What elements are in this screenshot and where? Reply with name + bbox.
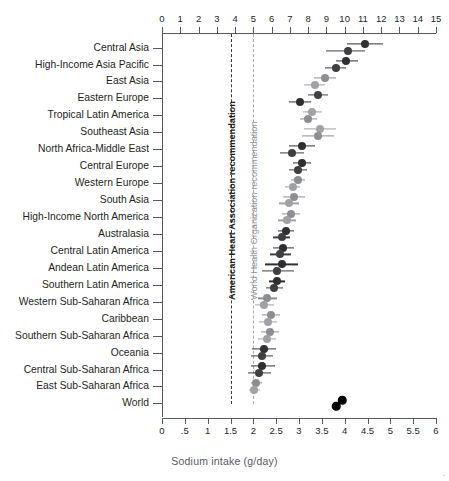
data-point-women bbox=[304, 115, 312, 123]
top-tick bbox=[436, 27, 437, 33]
category-tick bbox=[153, 149, 162, 150]
data-point-women bbox=[288, 149, 296, 157]
data-point-women bbox=[344, 47, 352, 55]
data-point-women bbox=[250, 386, 258, 394]
category-tick bbox=[153, 200, 162, 201]
top-tick bbox=[253, 27, 254, 33]
top-tick bbox=[217, 27, 218, 33]
category-label-central-sub-saharan-africa: Central Sub-Saharan Africa bbox=[24, 364, 149, 374]
bottom-tick bbox=[276, 418, 277, 424]
category-tick bbox=[153, 48, 162, 49]
top-tick-label: 3 bbox=[214, 14, 219, 24]
category-label-south-asia: South Asia bbox=[100, 195, 149, 205]
top-tick-label: 4 bbox=[232, 14, 237, 24]
top-tick-label: 5 bbox=[251, 14, 256, 24]
category-label-western-europe: Western Europe bbox=[75, 178, 149, 188]
category-label-central-latin-america: Central Latin America bbox=[51, 246, 149, 256]
bottom-tick-label: 4.5 bbox=[361, 426, 374, 436]
category-label-high-income-asia-pacific: High-Income Asia Pacific bbox=[35, 59, 149, 69]
data-point-women bbox=[264, 318, 272, 326]
data-point-women bbox=[283, 216, 291, 224]
top-tick-label: 2 bbox=[196, 14, 201, 24]
category-tick bbox=[153, 336, 162, 337]
top-tick-label: 0 bbox=[159, 14, 164, 24]
top-tick bbox=[399, 27, 400, 33]
category-label-western-sub-saharan-africa: Western Sub-Saharan Africa bbox=[19, 297, 149, 307]
bottom-tick-label: 2 bbox=[251, 426, 256, 436]
x-axis-title: Sodium intake (g/day) bbox=[0, 455, 449, 467]
top-tick-label: 9 bbox=[324, 14, 329, 24]
category-tick bbox=[153, 353, 162, 354]
category-tick bbox=[153, 319, 162, 320]
data-point-women bbox=[270, 284, 278, 292]
top-tick bbox=[272, 27, 273, 33]
plot-area bbox=[162, 34, 436, 417]
top-tick bbox=[308, 27, 309, 33]
category-tick bbox=[153, 234, 162, 235]
data-point-women bbox=[273, 267, 281, 275]
corner-mark: ▪ bbox=[443, 472, 445, 478]
data-point-women bbox=[278, 233, 286, 241]
data-point-men bbox=[294, 176, 302, 184]
data-point-men bbox=[290, 193, 298, 201]
bottom-tick-label: 3.5 bbox=[315, 426, 328, 436]
top-tick-label: 8 bbox=[305, 14, 310, 24]
top-tick-label: 14 bbox=[412, 14, 423, 24]
data-point-men bbox=[298, 142, 306, 150]
top-tick-label: 12 bbox=[376, 14, 387, 24]
category-tick bbox=[153, 132, 162, 133]
top-tick bbox=[290, 27, 291, 33]
category-label-andean-latin-america: Andean Latin America bbox=[48, 263, 149, 273]
top-tick bbox=[418, 27, 419, 33]
category-tick bbox=[153, 217, 162, 218]
bottom-tick-label: 1 bbox=[205, 426, 210, 436]
top-tick bbox=[235, 27, 236, 33]
category-tick bbox=[153, 166, 162, 167]
top-tick-label: 15 bbox=[431, 14, 442, 24]
top-tick bbox=[180, 27, 181, 33]
data-point-women bbox=[255, 369, 263, 377]
category-label-central-europe: Central Europe bbox=[80, 161, 149, 171]
category-label-high-income-north-america: High-Income North America bbox=[23, 212, 149, 222]
data-point-men bbox=[342, 57, 350, 65]
category-tick bbox=[153, 81, 162, 82]
category-label-eastern-europe: Eastern Europe bbox=[77, 93, 149, 103]
top-tick-label: 6 bbox=[269, 14, 274, 24]
top-tick bbox=[345, 27, 346, 33]
category-tick bbox=[153, 65, 162, 66]
data-point-women bbox=[296, 98, 304, 106]
data-point-women bbox=[314, 132, 322, 140]
data-point-women bbox=[332, 64, 340, 72]
bottom-tick bbox=[368, 418, 369, 424]
bottom-tick bbox=[413, 418, 414, 424]
bottom-tick-label: 5 bbox=[388, 426, 393, 436]
data-point-women bbox=[276, 250, 284, 258]
category-label-east-sub-saharan-africa: East Sub-Saharan Africa bbox=[36, 381, 149, 391]
data-point-women bbox=[289, 183, 297, 191]
top-tick bbox=[363, 27, 364, 33]
data-point-women bbox=[294, 166, 302, 174]
top-tick-label: 11 bbox=[358, 14, 368, 24]
bottom-tick-label: 2.5 bbox=[270, 426, 283, 436]
data-point-women bbox=[285, 199, 293, 207]
data-point-men bbox=[321, 74, 329, 82]
top-tick-label: 7 bbox=[287, 14, 292, 24]
data-point-men bbox=[314, 91, 322, 99]
bottom-tick-label: 4 bbox=[342, 426, 347, 436]
category-label-southeast-asia: Southeast Asia bbox=[80, 127, 149, 137]
category-tick bbox=[153, 386, 162, 387]
category-label-tropical-latin-america: Tropical Latin America bbox=[48, 110, 150, 120]
category-tick bbox=[153, 302, 162, 303]
category-label-oceania: Oceania bbox=[111, 347, 149, 357]
category-tick bbox=[153, 403, 162, 404]
bottom-tick bbox=[345, 418, 346, 424]
top-tick bbox=[326, 27, 327, 33]
category-tick bbox=[153, 98, 162, 99]
category-label-southern-sub-saharan-africa: Southern Sub-Saharan Africa bbox=[15, 330, 149, 340]
bottom-tick bbox=[208, 418, 209, 424]
bottom-tick-label: 1.5 bbox=[224, 426, 237, 436]
data-point-women bbox=[332, 402, 341, 411]
bottom-tick bbox=[322, 418, 323, 424]
bottom-tick bbox=[436, 418, 437, 424]
bottom-tick bbox=[162, 418, 163, 424]
